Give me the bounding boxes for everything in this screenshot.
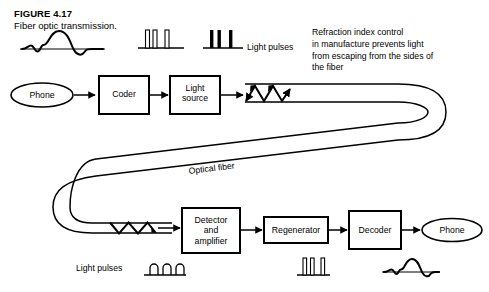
waveform-digital-outline-bottom bbox=[297, 258, 330, 275]
label-phone-output: Phone bbox=[422, 225, 482, 235]
waveform-digital-solid-top bbox=[203, 30, 243, 48]
label-regenerator: Regenerator bbox=[264, 225, 328, 235]
light-bounce-lower bbox=[110, 223, 157, 234]
label-light-pulses-bottom: Light pulses bbox=[76, 263, 122, 273]
waveform-rounded-pulses-bottom bbox=[144, 264, 186, 275]
figure-caption: Fiber optic transmission. bbox=[14, 20, 117, 31]
figure-number: FIGURE 4.17 bbox=[14, 8, 72, 19]
figure-container: FIGURE 4.17 Fiber optic transmission. Li… bbox=[0, 0, 489, 292]
note-refraction-index: Refraction index control in manufacture … bbox=[312, 27, 433, 74]
label-light-pulses-top: Light pulses bbox=[247, 42, 293, 52]
label-coder: Coder bbox=[99, 89, 149, 99]
label-phone-input: Phone bbox=[12, 90, 72, 100]
waveform-digital-outline-top bbox=[138, 30, 184, 48]
waveform-analog-input bbox=[20, 31, 105, 55]
label-detector-amplifier: Detector and amplifier bbox=[182, 215, 240, 246]
waveform-analog-output bbox=[382, 259, 440, 276]
label-light-source: Light source bbox=[170, 83, 220, 104]
label-decoder: Decoder bbox=[349, 225, 401, 235]
